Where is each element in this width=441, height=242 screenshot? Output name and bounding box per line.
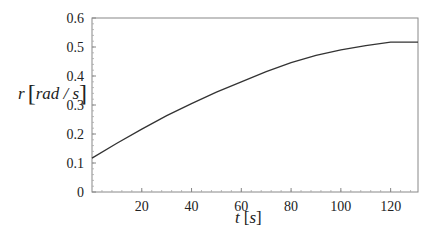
y-tick-label: 0.6 — [67, 11, 85, 26]
x-axis-label: t[s] — [235, 208, 262, 227]
minor-ticks — [92, 24, 411, 192]
x-tick-label: 20 — [135, 199, 149, 214]
y-tick-label: 0.2 — [67, 127, 85, 142]
series-line-r — [92, 42, 418, 158]
y-tick-label: 0 — [77, 185, 84, 200]
y-axis-label: r[rad / s] — [18, 80, 87, 106]
x-tick-label: 120 — [380, 199, 401, 214]
line-chart: 00.10.20.30.40.50.6 20406080100120 r[rad… — [0, 0, 441, 242]
x-tick-label: 40 — [185, 199, 199, 214]
x-tick-label: 80 — [284, 199, 298, 214]
y-tick-label: 0.1 — [67, 156, 85, 171]
y-tick-label: 0.5 — [67, 40, 85, 55]
plot-frame — [92, 18, 418, 192]
x-tick-label: 100 — [330, 199, 351, 214]
